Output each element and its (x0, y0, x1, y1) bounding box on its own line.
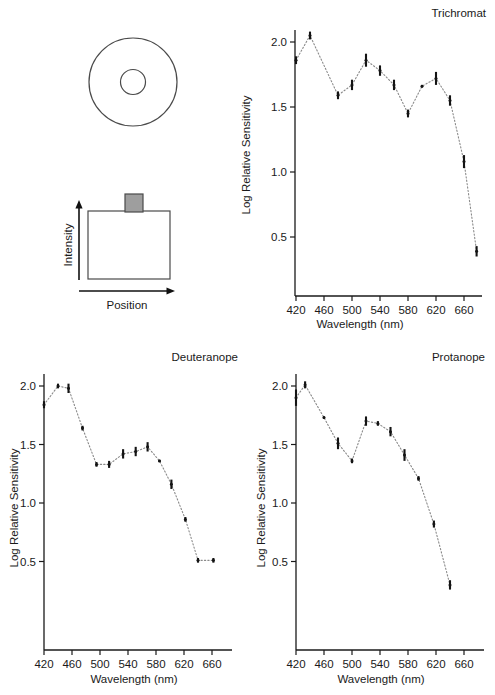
data-point-deuteranope-5 (108, 463, 111, 466)
stimulus-diagram: Intensity Position (0, 0, 235, 330)
intensity-profile-pedestal-base (88, 211, 170, 279)
y-tick-label-protanope-0: 0.5 (272, 556, 288, 568)
data-point-deuteranope-0 (43, 403, 46, 406)
data-point-trichromat-1 (309, 34, 312, 37)
x-tick-label-protanope-4: 580 (398, 658, 417, 670)
data-point-protanope-6 (376, 422, 379, 425)
data-point-protanope-7 (389, 430, 392, 433)
data-line-protanope (296, 385, 450, 585)
y-tick-label-trichromat-1: 1.0 (271, 166, 287, 178)
y-tick-label-trichromat-0: 0.5 (271, 231, 287, 243)
data-point-trichromat-6 (393, 83, 396, 86)
data-point-protanope-1 (304, 383, 307, 386)
data-point-protanope-11 (449, 583, 452, 586)
data-point-trichromat-2 (337, 94, 340, 97)
data-point-protanope-8 (403, 454, 406, 457)
x-tick-label-protanope-5: 620 (426, 658, 445, 670)
y-tick-label-protanope-1: 1.0 (272, 497, 288, 509)
deuteranope-chart-svg: 0.51.01.52.0420460500540580620660 Deuter… (0, 340, 248, 695)
x-tick-label-protanope-6: 660 (454, 658, 473, 670)
y-axis-title-deuteranope: Log Relative Sensitivity (8, 448, 20, 567)
trichromat-axes: 0.51.01.52.0420460500540580620660 (271, 30, 482, 316)
position-axis-arrowhead (167, 287, 176, 294)
y-tick-label-protanope-2: 1.5 (272, 439, 288, 451)
x-tick-label-trichromat-4: 580 (398, 304, 417, 316)
x-tick-label-deuteranope-2: 500 (90, 658, 109, 670)
data-point-deuteranope-8 (146, 445, 149, 448)
data-point-deuteranope-2 (67, 387, 70, 390)
intensity-profile-test-pedestal (125, 194, 143, 212)
chart-panel-trichromat: 0.51.01.52.0420460500540580620660 Trichr… (234, 0, 495, 340)
chart-panel-protanope: 0.51.01.52.0420460500540580620660 Protan… (247, 340, 495, 695)
data-point-deuteranope-3 (81, 427, 84, 430)
data-point-trichromat-7 (407, 112, 410, 115)
data-point-trichromat-5 (379, 69, 382, 72)
data-point-trichromat-0 (295, 59, 298, 62)
deuteranope-series (43, 384, 215, 563)
x-tick-label-protanope-0: 420 (286, 658, 305, 670)
x-tick-label-deuteranope-1: 460 (62, 658, 81, 670)
protanope-series (295, 381, 452, 589)
data-point-trichromat-11 (463, 160, 466, 163)
x-tick-label-deuteranope-4: 580 (146, 658, 165, 670)
x-tick-label-trichromat-1: 460 (314, 304, 333, 316)
adapting-field-circle (89, 38, 177, 126)
panel-title-protanope: Protanope (432, 351, 485, 363)
data-point-deuteranope-13 (212, 559, 215, 562)
data-point-trichromat-8 (421, 85, 424, 88)
x-tick-label-protanope-2: 500 (342, 658, 361, 670)
test-spot-circle (121, 70, 146, 95)
deuteranope-plot-group: 0.51.01.52.0420460500540580620660 Deuter… (8, 351, 238, 685)
deuteranope-axes: 0.51.01.52.0420460500540580620660 (20, 374, 232, 670)
data-point-deuteranope-6 (122, 452, 125, 455)
x-tick-label-trichromat-5: 620 (426, 304, 445, 316)
position-axis-label: Position (107, 299, 148, 311)
data-point-deuteranope-11 (184, 518, 187, 521)
x-tick-label-deuteranope-0: 420 (34, 658, 53, 670)
data-point-deuteranope-9 (158, 459, 161, 462)
y-tick-label-trichromat-2: 1.5 (271, 101, 287, 113)
x-tick-label-trichromat-3: 540 (370, 304, 389, 316)
protanope-chart-svg: 0.51.01.52.0420460500540580620660 Protan… (247, 340, 495, 695)
trichromat-chart-svg: 0.51.01.52.0420460500540580620660 Trichr… (234, 0, 495, 340)
x-tick-label-deuteranope-6: 660 (202, 658, 221, 670)
x-tick-label-deuteranope-5: 620 (174, 658, 193, 670)
y-tick-label-protanope-3: 2.0 (272, 380, 288, 392)
x-axis-title-protanope: Wavelength (nm) (337, 673, 424, 685)
panel-title-deuteranope: Deuteranope (172, 351, 239, 363)
x-axis-title-deuteranope: Wavelength (nm) (90, 673, 177, 685)
data-point-deuteranope-12 (197, 559, 200, 562)
data-point-trichromat-4 (365, 59, 368, 62)
trichromat-series (295, 32, 479, 257)
data-line-deuteranope (44, 386, 213, 560)
x-tick-label-deuteranope-3: 540 (118, 658, 137, 670)
data-point-trichromat-10 (449, 99, 452, 102)
data-point-protanope-5 (365, 420, 368, 423)
data-point-protanope-2 (323, 416, 326, 419)
intensity-axis-label: Intensity (62, 223, 74, 266)
intensity-axis-arrowhead (75, 200, 82, 209)
y-tick-label-deuteranope-0: 0.5 (20, 556, 36, 568)
data-point-deuteranope-4 (95, 463, 98, 466)
y-axis-title-protanope: Log Relative Sensitivity (255, 448, 267, 567)
data-point-protanope-9 (417, 477, 420, 480)
x-tick-label-protanope-3: 540 (370, 658, 389, 670)
y-tick-label-deuteranope-2: 1.5 (20, 439, 36, 451)
y-tick-label-trichromat-3: 2.0 (271, 36, 287, 48)
data-point-trichromat-12 (475, 250, 478, 253)
data-point-protanope-3 (337, 442, 340, 445)
data-point-protanope-0 (295, 396, 298, 399)
data-point-trichromat-9 (435, 77, 438, 80)
data-point-trichromat-3 (351, 83, 354, 86)
x-tick-label-trichromat-0: 420 (286, 304, 305, 316)
x-tick-label-trichromat-6: 660 (454, 304, 473, 316)
data-point-protanope-10 (432, 523, 435, 526)
trichromat-plot-group: 0.51.01.52.0420460500540580620660 Trichr… (240, 7, 487, 330)
data-point-protanope-4 (351, 459, 354, 462)
stimulus-diagram-svg: Intensity Position (0, 0, 235, 330)
data-point-deuteranope-10 (170, 483, 173, 486)
x-tick-label-protanope-1: 460 (314, 658, 333, 670)
data-point-deuteranope-1 (57, 385, 60, 388)
chart-panel-deuteranope: 0.51.01.52.0420460500540580620660 Deuter… (0, 340, 248, 695)
y-tick-label-deuteranope-3: 2.0 (20, 380, 36, 392)
